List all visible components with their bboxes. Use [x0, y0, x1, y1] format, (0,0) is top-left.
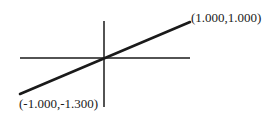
end-point-label: (1.000,1.000) [191, 10, 261, 25]
diagram-canvas: (1.000,1.000) (-1.000,-1.300) [0, 0, 268, 118]
start-point-label: (-1.000,-1.300) [19, 96, 98, 111]
